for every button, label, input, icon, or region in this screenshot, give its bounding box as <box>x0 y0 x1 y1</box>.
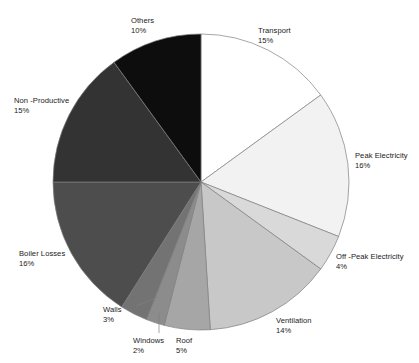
pie-label-value-others: 10% <box>131 26 154 36</box>
pie-chart: Transport15%Peak Electricity16%Off -Peak… <box>0 0 419 363</box>
pie-label-name-peak-electricity: Peak Electricity <box>355 151 408 161</box>
pie-label-others: Others10% <box>131 16 154 36</box>
pie-label-value-off-peak: 4% <box>336 262 404 272</box>
pie-label-boiler-losses: Boiler Losses16% <box>19 249 65 269</box>
pie-label-name-others: Others <box>131 16 154 26</box>
pie-label-windows: Windows2% <box>133 336 164 356</box>
pie-label-value-transport: 15% <box>258 36 291 46</box>
pie-chart-canvas <box>0 0 419 363</box>
pie-label-value-windows: 2% <box>133 346 164 356</box>
pie-label-ventilation: Ventilation14% <box>276 316 312 336</box>
pie-label-peak-electricity: Peak Electricity16% <box>355 151 408 171</box>
pie-label-name-boiler-losses: Boiler Losses <box>19 249 65 259</box>
pie-label-walls: Walls3% <box>103 305 122 325</box>
pie-label-value-roof: 5% <box>176 346 192 356</box>
pie-label-value-boiler-losses: 16% <box>19 259 65 269</box>
pie-label-name-non-productive: Non -Productive <box>14 96 69 106</box>
pie-slice-group <box>53 34 349 330</box>
pie-label-name-roof: Roof <box>176 336 192 346</box>
pie-label-name-ventilation: Ventilation <box>276 316 312 326</box>
pie-label-value-peak-electricity: 16% <box>355 161 408 171</box>
pie-label-name-windows: Windows <box>133 336 164 346</box>
pie-label-non-productive: Non -Productive15% <box>14 96 69 116</box>
pie-label-value-walls: 3% <box>103 315 122 325</box>
pie-label-roof: Roof5% <box>176 336 192 356</box>
pie-label-name-off-peak: Off -Peak Electricity <box>336 252 404 262</box>
pie-label-transport: Transport15% <box>258 26 291 46</box>
pie-label-value-ventilation: 14% <box>276 326 312 336</box>
pie-label-off-peak: Off -Peak Electricity4% <box>336 252 404 272</box>
pie-label-name-walls: Walls <box>103 305 122 315</box>
pie-label-name-transport: Transport <box>258 26 291 36</box>
pie-label-value-non-productive: 15% <box>14 106 69 116</box>
